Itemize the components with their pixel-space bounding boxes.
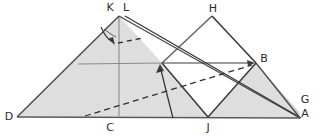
vertex-label-B: B: [260, 52, 268, 65]
vertex-label-L: L: [123, 1, 130, 14]
edge-H-to-B: [212, 16, 256, 63]
geometry-canvas: K L H B G A D C J: [0, 0, 323, 137]
edge-base-D-to-A: [17, 117, 300, 118]
vertex-label-D: D: [5, 110, 13, 123]
vertex-label-A: A: [301, 107, 309, 120]
edge-I-to-H: [162, 16, 212, 63]
vertex-label-J: J: [205, 121, 209, 134]
geometry-figure: K L H B G A D C J: [0, 0, 323, 137]
vertex-label-C: C: [106, 121, 114, 134]
vertex-label-H: H: [209, 2, 217, 15]
shaded-left-large-triangle: [17, 16, 208, 117]
vertex-label-K: K: [106, 1, 114, 14]
vertex-label-G: G: [301, 93, 310, 106]
